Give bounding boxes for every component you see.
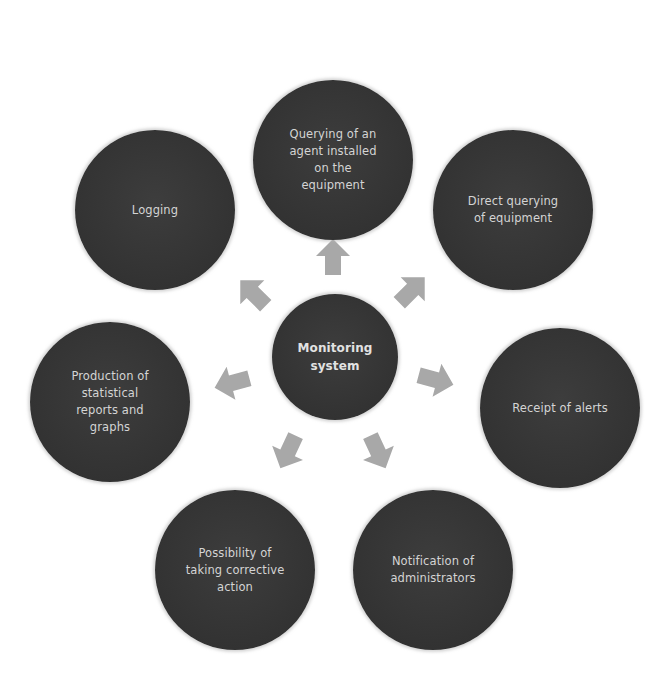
- node-label: Logging: [132, 202, 178, 219]
- arrow-up-left-icon: [225, 265, 282, 322]
- node-label: Querying of an agent installed on the eq…: [289, 126, 376, 194]
- arrow-up-icon: [313, 237, 353, 277]
- node-label: Direct querying of equipment: [468, 193, 559, 227]
- arrow-down-left-icon: [261, 425, 314, 478]
- node-label: Notification of administrators: [390, 553, 475, 587]
- node-receipt-alerts: Receipt of alerts: [480, 328, 640, 488]
- node-label: Possibility of taking corrective action: [186, 545, 285, 596]
- node-label: Receipt of alerts: [512, 400, 608, 417]
- node-direct-querying: Direct querying of equipment: [433, 130, 593, 290]
- arrow-down-right-icon: [351, 425, 404, 478]
- node-agent-querying: Querying of an agent installed on the eq…: [253, 80, 413, 240]
- node-corrective-action: Possibility of taking corrective action: [155, 490, 315, 650]
- node-statistical-reports: Production of statistical reports and gr…: [30, 322, 190, 482]
- node-notification-admins: Notification of administrators: [353, 490, 513, 650]
- monitoring-system-diagram: Monitoring system Querying of an agent i…: [0, 0, 671, 691]
- arrow-up-right-icon: [384, 262, 441, 319]
- node-label: Production of statistical reports and gr…: [71, 368, 148, 436]
- monitoring-system-hub: Monitoring system: [272, 294, 398, 420]
- arrow-left-icon: [208, 359, 257, 408]
- arrow-right-icon: [412, 356, 461, 405]
- node-logging: Logging: [75, 130, 235, 290]
- hub-label: Monitoring system: [298, 339, 373, 375]
